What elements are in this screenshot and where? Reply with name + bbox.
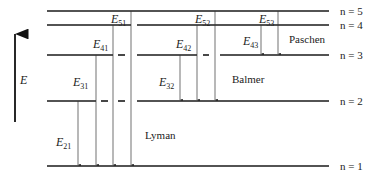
energy-axis-label: E	[19, 73, 28, 87]
energy-levels: n = 5n = 4n = 3n = 2n = 1	[47, 5, 363, 172]
transition-label-41: E41	[92, 37, 108, 53]
transition-label-51: E51	[110, 12, 126, 28]
series-label-lyman: Lyman	[145, 129, 176, 141]
transition-label-43: E43	[242, 34, 258, 50]
series-label-paschen: Paschen	[289, 33, 326, 45]
series-label-balmer: Balmer	[232, 73, 265, 85]
transitions: E21E31E41E51E32E42E52E43E53	[55, 11, 278, 165]
transition-label-31: E31	[72, 75, 88, 91]
transition-label-52: E52	[194, 12, 210, 28]
transition-label-32: E32	[158, 75, 174, 91]
level-label-n5: n = 5	[340, 5, 363, 17]
transition-label-42: E42	[175, 37, 191, 53]
level-label-n1: n = 1	[340, 160, 363, 172]
energy-level-diagram: E n = 5n = 4n = 3n = 2n = 1 E21E31E41E51…	[0, 0, 384, 177]
level-label-n3: n = 3	[340, 49, 363, 61]
level-label-n4: n = 4	[340, 19, 363, 31]
transition-label-21: E21	[55, 135, 71, 151]
level-label-n2: n = 2	[340, 95, 363, 107]
transition-label-53: E53	[258, 12, 274, 28]
